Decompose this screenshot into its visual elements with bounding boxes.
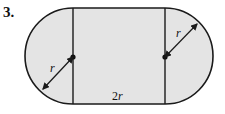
right-radius-label: r (176, 26, 181, 40)
width-label: 2r (112, 89, 123, 103)
stadium-diagram: r r 2r (0, 0, 225, 114)
left-radius-label: r (50, 61, 55, 75)
